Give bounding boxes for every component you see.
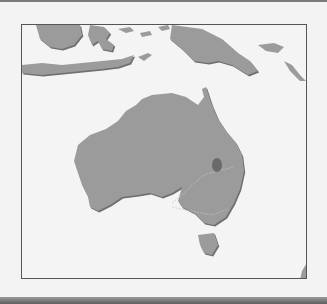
map-canvas [22,25,307,279]
highlighted-region [212,158,222,172]
sulawesi [88,25,114,51]
map-frame [21,24,307,279]
new-britain [258,43,284,53]
land-masses [22,25,307,279]
australia-mainland [74,87,244,225]
bottom-rule [0,297,327,304]
timor [138,53,152,61]
top-rule [0,0,327,2]
new-zealand-edge [300,261,307,279]
solomon-islands [284,61,306,81]
small-islands-north [118,25,170,37]
new-guinea [170,25,258,75]
